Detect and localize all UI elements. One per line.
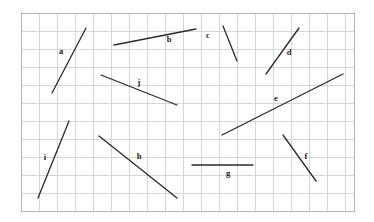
segment-line-e — [222, 74, 343, 135]
segment-label-d: d — [287, 47, 292, 57]
segment-e: e — [222, 74, 343, 135]
segment-label-h: h — [137, 151, 142, 161]
line-segment-diagram: abcdefghij — [0, 0, 374, 222]
segment-label-g: g — [226, 168, 231, 178]
segment-label-a: a — [59, 46, 64, 56]
segment-line-i — [38, 121, 69, 198]
segment-label-e: e — [274, 93, 278, 103]
segment-label-j: j — [137, 77, 141, 87]
grid-border — [22, 14, 355, 212]
segment-i: i — [38, 121, 69, 198]
segment-label-c: c — [206, 30, 210, 40]
segment-label-b: b — [167, 34, 172, 44]
figure-canvas: abcdefghij — [0, 0, 374, 222]
grid-lines — [22, 14, 355, 212]
segment-label-f: f — [305, 151, 308, 161]
